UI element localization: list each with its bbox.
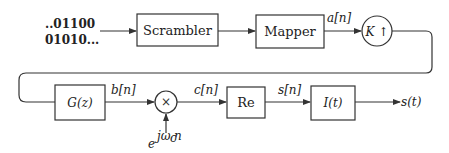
- carrier-exponent: jω: [154, 129, 171, 143]
- filter-label: G(z): [67, 96, 93, 110]
- filter-block: G(z): [55, 85, 105, 120]
- mapper-label: Mapper: [264, 24, 316, 39]
- real-part-label: Re: [237, 95, 255, 110]
- input-bits-line1: ..01100: [45, 17, 95, 31]
- carrier-n: n: [174, 129, 182, 143]
- real-part-block: Re: [227, 87, 265, 118]
- carrier-base: e: [148, 137, 155, 151]
- upsampler-block: K ↑: [362, 16, 392, 46]
- signal-b-label: b[n]: [111, 83, 136, 97]
- signal-a-label: a[n]: [327, 11, 352, 25]
- upsampler-label: K ↑: [365, 25, 389, 39]
- signal-s-discrete-label: s[n]: [278, 83, 302, 97]
- input-bitstream: ..01100 01010...: [45, 17, 99, 47]
- multiplier-block: ×: [155, 91, 177, 113]
- interpolator-label: I(t): [323, 96, 343, 110]
- interpolator-block: I(t): [311, 86, 355, 120]
- signal-s-continuous-label: s(t): [401, 95, 422, 109]
- block-diagram: ..01100 01010... Scrambler Mapper a[n] K…: [0, 0, 449, 153]
- multiply-icon: ×: [161, 95, 171, 109]
- input-bits-line2: 01010...: [45, 33, 99, 47]
- signal-c-label: c[n]: [194, 83, 218, 97]
- mapper-block: Mapper: [256, 15, 324, 48]
- scrambler-label: Scrambler: [143, 23, 213, 38]
- scrambler-block: Scrambler: [137, 14, 218, 46]
- carrier-label: e jω c n: [148, 129, 182, 151]
